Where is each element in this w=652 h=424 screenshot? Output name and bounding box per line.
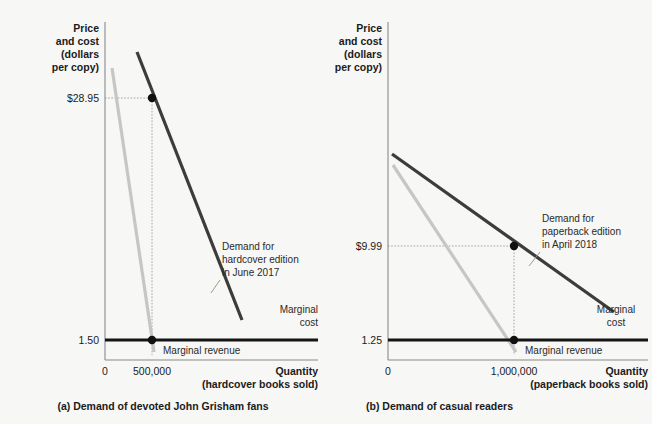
panel-a-y-tick-cost: 1.50 [79,334,100,346]
panel-b-y-tick-cost: 1.25 [362,334,383,346]
panel-a-price-point [148,94,156,102]
panel-b-marginal-cost-label-line1: Marginal [597,304,635,315]
panel-b-x-tick-quantity: 1,000,000 [491,365,538,377]
panel-a-chart: Price and cost (dollars per copy) $28.95… [0,0,326,424]
panel-a-origin-label: 0 [102,365,108,377]
panel-a-demand-label-line1: Demand for [222,241,275,252]
panel-a-x-axis-subtitle: (hardcover books sold) [202,378,318,390]
panel-b-y-tick-price: $9.99 [356,240,382,252]
panel-a-x-axis-title: Quantity [275,365,318,377]
panel-a-y-axis-title-line1: Price [73,22,99,34]
panel-a-caption: (a) Demand of devoted John Grisham fans [57,400,268,412]
panel-a-demand-leader-line [211,280,220,293]
panel-a-marginal-cost-label-line2: cost [300,317,319,328]
panel-a-marginal-cost-label-line1: Marginal [280,304,318,315]
panel-a-y-axis-title-line2: and cost [56,35,100,47]
panel-b-caption: (b) Demand of casual readers [366,400,513,412]
panel-b-origin-label: 0 [385,365,391,377]
panel-a-y-axis-title-line3: (dollars [61,48,99,60]
panel-b-price-point [510,242,518,250]
panel-b-y-axis-title-line1: Price [356,22,382,34]
panel-b-marginal-revenue-curve [393,165,516,352]
panel-a-demand-label-line3: in June 2017 [222,267,280,278]
panel-a-marginal-revenue-label: Marginal revenue [163,345,241,356]
panel-a-y-tick-price: $28.95 [67,92,99,104]
panel-a-demand-label-line2: hardcover edition [222,254,299,265]
panel-a-marginal-revenue-curve [112,68,154,352]
figure-container: Price and cost (dollars per copy) $28.95… [0,0,652,424]
panel-a-demand-curve [137,52,242,320]
panel-b-mr-mc-intersection-point [510,336,518,344]
panel-b-demand-label-line2: paperback edition [542,226,621,237]
panel-a-x-tick-quantity: 500,000 [133,365,171,377]
panel-b-marginal-cost-label-line2: cost [607,317,626,328]
panel-a-y-axis-title-line4: per copy) [52,61,99,73]
panel-b-x-axis-title: Quantity [605,365,648,377]
panel-b-x-axis-subtitle: (paperback books sold) [530,378,648,390]
panel-a-mr-mc-intersection-point [148,336,156,344]
panel-b-y-axis-title-line2: and cost [339,35,383,47]
panel-b-chart: Price and cost (dollars per copy) $9.99 … [326,0,652,424]
panel-b-marginal-revenue-label: Marginal revenue [525,345,603,356]
panel-b-demand-label-line1: Demand for [542,213,595,224]
panel-b-demand-label-line3: in April 2018 [542,239,597,250]
panel-b-y-axis-title-line3: (dollars [344,48,382,60]
panel-b-y-axis-title-line4: per copy) [335,61,382,73]
